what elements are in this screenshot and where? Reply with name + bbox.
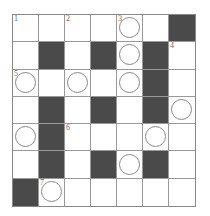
grid-cell[interactable] [117, 42, 143, 69]
grid-cell[interactable] [13, 97, 39, 124]
grid-cell[interactable] [39, 15, 65, 42]
grid-cell[interactable] [169, 151, 195, 178]
black-cell [169, 15, 195, 42]
grid-cell[interactable] [143, 179, 169, 206]
grid-cell[interactable] [91, 70, 117, 97]
grid-cell[interactable] [117, 70, 143, 97]
black-cell [39, 124, 65, 151]
grid-cell[interactable] [143, 124, 169, 151]
black-cell [91, 42, 117, 69]
clue-number: 4 [170, 42, 174, 50]
black-cell [13, 179, 39, 206]
grid-cell[interactable] [13, 151, 39, 178]
black-cell [143, 42, 169, 69]
grid-cell[interactable] [91, 15, 117, 42]
circle-icon [119, 44, 140, 65]
black-cell [143, 70, 169, 97]
grid-cell[interactable]: 7 [39, 179, 65, 206]
black-cell [91, 151, 117, 178]
grid-cell[interactable] [169, 97, 195, 124]
grid-cell[interactable] [169, 179, 195, 206]
circle-icon [171, 99, 192, 120]
grid-cell[interactable] [91, 179, 117, 206]
clue-number: 7 [40, 179, 44, 187]
grid-cell[interactable]: 3 [117, 15, 143, 42]
black-cell [91, 97, 117, 124]
circle-icon [145, 126, 166, 147]
grid-cell[interactable] [13, 124, 39, 151]
grid-cell[interactable]: 6 [65, 124, 91, 151]
black-cell [39, 42, 65, 69]
grid-cell[interactable]: 5 [13, 70, 39, 97]
grid-cell[interactable] [117, 124, 143, 151]
grid-cell[interactable] [65, 179, 91, 206]
grid-cell[interactable]: 1 [13, 15, 39, 42]
clue-number: 5 [14, 70, 18, 78]
grid-cell[interactable] [65, 42, 91, 69]
grid-cell[interactable]: 4 [169, 42, 195, 69]
grid-cell[interactable]: 2 [65, 15, 91, 42]
black-cell [39, 97, 65, 124]
clue-number: 2 [66, 15, 70, 23]
circle-icon [119, 72, 140, 93]
grid-cell[interactable] [117, 97, 143, 124]
grid-cell[interactable] [65, 70, 91, 97]
black-cell [143, 97, 169, 124]
grid-cell[interactable] [169, 70, 195, 97]
grid-cell[interactable] [91, 124, 117, 151]
circle-icon [67, 72, 88, 93]
grid-cell[interactable] [169, 124, 195, 151]
clue-number: 3 [118, 15, 122, 23]
clue-number: 1 [14, 15, 18, 23]
grid-cell[interactable] [117, 179, 143, 206]
grid-cell[interactable] [39, 70, 65, 97]
circle-icon [15, 126, 36, 147]
clue-number: 6 [66, 124, 70, 132]
black-cell [143, 151, 169, 178]
crossword-grid: 1234567 [12, 14, 196, 207]
grid-cell[interactable] [65, 97, 91, 124]
grid-cell[interactable] [117, 151, 143, 178]
grid-cell[interactable] [143, 15, 169, 42]
black-cell [39, 151, 65, 178]
grid-cell[interactable] [13, 42, 39, 69]
circle-icon [119, 154, 140, 175]
grid-cell[interactable] [65, 151, 91, 178]
